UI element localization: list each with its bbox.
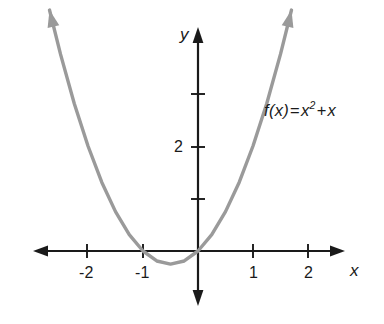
linear-term: x xyxy=(328,101,337,119)
y-axis-bottom-arrowhead xyxy=(193,290,204,306)
coordinate-plane-svg xyxy=(0,0,384,324)
x-tick-label-pos2: 2 xyxy=(304,265,313,281)
equals-sign: = xyxy=(289,101,301,119)
x-axis-left-arrowhead xyxy=(33,246,48,257)
x-axis-right-arrowhead xyxy=(330,246,345,257)
function-notation: f(x) xyxy=(264,101,289,119)
x-tick-label-neg1: -1 xyxy=(135,265,150,281)
parabola-curve xyxy=(50,10,292,264)
graph-figure: -2 -1 1 2 2 x y f(x)=x2+x xyxy=(0,0,384,324)
y-axis-top-arrowhead xyxy=(193,27,204,43)
x-tick-label-neg2: -2 xyxy=(79,265,94,281)
curve-left-arrowhead xyxy=(48,10,60,28)
curve-right-arrowhead xyxy=(282,10,294,28)
x-axis-label: x xyxy=(350,262,359,279)
plus-sign: + xyxy=(316,101,328,119)
y-axis-label: y xyxy=(180,26,189,43)
x-tick-label-pos1: 1 xyxy=(249,265,258,281)
squared-term-exponent: 2 xyxy=(310,99,316,111)
function-equation-label: f(x)=x2+x xyxy=(264,100,336,118)
squared-term-base: x xyxy=(301,101,310,119)
y-tick-label-pos2: 2 xyxy=(174,139,183,155)
